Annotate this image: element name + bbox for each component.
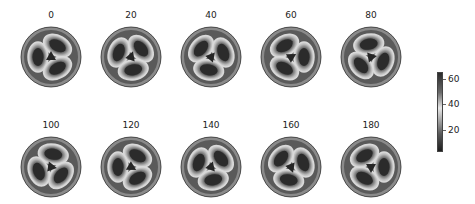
- colorbar-tick: [443, 104, 446, 105]
- disk-panel-120: 120: [96, 120, 166, 202]
- disk-pattern: [180, 26, 242, 88]
- disk-panel-0: 0: [16, 10, 86, 92]
- panel-label: 80: [336, 10, 406, 21]
- panel-label: 20: [96, 10, 166, 21]
- disk-panel-140: 140: [176, 120, 246, 202]
- disk-pattern: [20, 26, 82, 88]
- panel-label: 60: [256, 10, 326, 21]
- disk-pattern: [100, 136, 162, 198]
- disk-panel-180: 180: [336, 120, 406, 202]
- colorbar-label-20: 20: [448, 125, 459, 135]
- panel-label: 0: [16, 10, 86, 21]
- disk-panel-20: 20: [96, 10, 166, 92]
- panel-label: 160: [256, 120, 326, 131]
- panel-label: 140: [176, 120, 246, 131]
- disk-panel-60: 60: [256, 10, 326, 92]
- disk-panel-160: 160: [256, 120, 326, 202]
- panel-label: 180: [336, 120, 406, 131]
- disk-pattern: [340, 26, 402, 88]
- disk-pattern: [340, 136, 402, 198]
- disk-panel-100: 100: [16, 120, 86, 202]
- disk-pattern: [180, 136, 242, 198]
- disk-panel-40: 40: [176, 10, 246, 92]
- panel-label: 100: [16, 120, 86, 131]
- colorbar-tick: [443, 79, 446, 80]
- colorbar-label-60: 60: [448, 74, 459, 84]
- disk-pattern: [100, 26, 162, 88]
- disk-pattern: [20, 136, 82, 198]
- colorbar-tick: [443, 130, 446, 131]
- panel-label: 40: [176, 10, 246, 21]
- disk-pattern: [260, 136, 322, 198]
- disk-pattern: [260, 26, 322, 88]
- disk-panel-80: 80: [336, 10, 406, 92]
- colorbar: [437, 72, 443, 152]
- panel-label: 120: [96, 120, 166, 131]
- colorbar-label-40: 40: [448, 99, 459, 109]
